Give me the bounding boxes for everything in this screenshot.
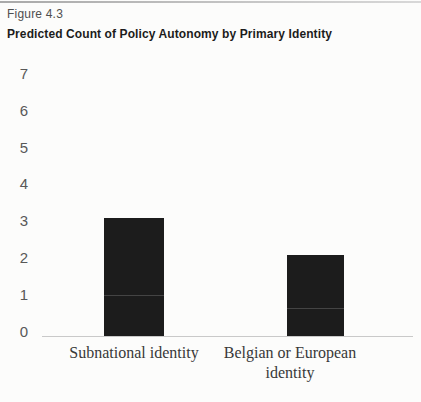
y-axis-tick-label: 5: [4, 139, 28, 157]
bar-chart: 01234567Subnational identityBelgian or E…: [0, 0, 421, 402]
y-axis-tick-label: 3: [4, 212, 28, 230]
y-axis-tick-label: 7: [4, 65, 28, 83]
bar-belgian-or-european-identity: [287, 255, 344, 336]
y-axis-tick-label: 1: [4, 286, 28, 304]
scan-artifact-line: [287, 308, 344, 309]
bar-subnational-identity: [104, 218, 164, 336]
scanned-figure-page: Figure 4.3 Predicted Count of Policy Aut…: [0, 0, 421, 402]
x-axis-category-label: Belgian or European identity: [212, 343, 368, 383]
x-axis-line: [42, 336, 413, 337]
y-axis-tick-label: 6: [4, 102, 28, 120]
y-axis-tick-label: 4: [4, 175, 28, 193]
x-axis-category-label: Subnational identity: [48, 343, 220, 363]
y-axis-tick-label: 2: [4, 249, 28, 267]
y-axis-tick-label: 0: [4, 323, 28, 341]
scan-artifact-line: [104, 295, 164, 296]
